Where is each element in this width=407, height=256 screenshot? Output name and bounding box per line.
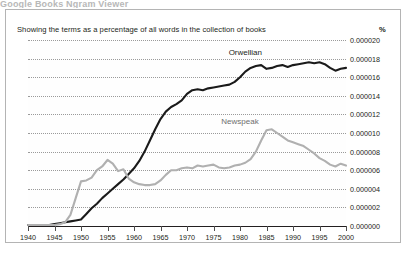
x-axis-tick	[240, 226, 241, 231]
series-paths	[28, 40, 346, 226]
x-axis-tick-label: 1965	[153, 233, 169, 242]
x-axis-tick	[134, 226, 135, 231]
x-axis-tick-label: 1960	[126, 233, 142, 242]
plot-area	[28, 40, 346, 226]
annotation-newspeak: Newspeak	[221, 116, 258, 125]
x-axis-tick	[320, 226, 321, 231]
y-axis-tick-label: 0.000000	[350, 222, 380, 231]
y-axis-tick-label: 0.000016	[350, 73, 380, 82]
x-axis-tick	[293, 226, 294, 231]
x-axis-tick-label: 1980	[232, 233, 248, 242]
y-axis-tick-label: 0.000012	[350, 110, 380, 119]
x-axis-tick	[108, 226, 109, 231]
y-axis-tick-label: 0.000008	[350, 147, 380, 156]
chart-panel: Showing the terms as a percentage of all…	[5, 9, 401, 243]
x-axis-tick-label: 1945	[47, 233, 63, 242]
x-axis-tick	[267, 226, 268, 231]
x-axis-tick-label: 1940	[20, 233, 36, 242]
x-axis-tick-label: 1955	[100, 233, 116, 242]
x-axis-tick	[28, 226, 29, 231]
x-axis-tick-label: 1950	[73, 233, 89, 242]
x-axis-tick-label: 1975	[206, 233, 222, 242]
x-axis-tick-label: 2000	[338, 233, 354, 242]
x-axis-tick-label: 1990	[285, 233, 301, 242]
x-axis-tick-label: 1985	[259, 233, 275, 242]
x-axis-tick-label: 1995	[312, 233, 328, 242]
cropped-title: Google Books Ngram Viewer	[0, 0, 407, 8]
x-axis-tick	[187, 226, 188, 231]
x-axis-tick	[346, 226, 347, 231]
series-line-newspeak	[28, 129, 346, 225]
ngram-chart-screenshot: Google Books Ngram Viewer Showing the te…	[0, 0, 407, 256]
x-axis-tick	[81, 226, 82, 231]
annotation-orwellian: Orwellian	[229, 48, 262, 57]
y-axis-tick-label: 0.000020	[350, 36, 380, 45]
x-axis-tick	[161, 226, 162, 231]
y-axis-tick-label: 0.000010	[350, 129, 380, 138]
chart-subtitle: Showing the terms as a percentage of all…	[17, 25, 266, 34]
x-axis-tick	[55, 226, 56, 231]
y-axis-tick-label: 0.000014	[350, 91, 380, 100]
x-axis-tick-label: 1970	[179, 233, 195, 242]
y-axis-tick-label: 0.000002	[350, 203, 380, 212]
x-axis-tick	[214, 226, 215, 231]
y-axis-unit-label: %	[379, 25, 386, 34]
y-axis-tick-label: 0.000004	[350, 184, 380, 193]
y-axis-tick-label: 0.000006	[350, 166, 380, 175]
y-axis-tick-label: 0.000018	[350, 54, 380, 63]
